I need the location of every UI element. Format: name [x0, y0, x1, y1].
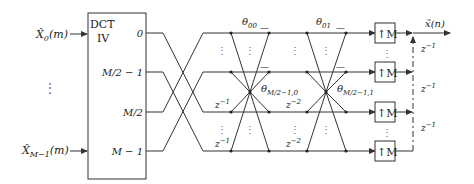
svg-text:—: —: [260, 23, 269, 33]
upsampler-1: ↑M: [375, 62, 397, 82]
output-delay-0: z−1: [420, 42, 436, 54]
theta-01-label: θ01: [316, 16, 331, 30]
upsampler-3: ↑M: [375, 141, 397, 161]
delay-z-2-b: z−2: [285, 137, 302, 149]
svg-text:⋮: ⋮: [217, 45, 227, 56]
svg-text:↑M: ↑M: [377, 146, 397, 159]
dct-output-0: 0: [137, 28, 144, 39]
delay-z-1-a: z−1: [214, 98, 230, 110]
filter-bank-diagram: X̂0(m) ⋮ X̂M−1(m) DCT IV 0 M/2 − 1 M/2 M…: [0, 0, 474, 184]
dct-output-m-1: M − 1: [111, 146, 143, 157]
svg-text:⋮: ⋮: [290, 45, 300, 56]
theta-m2-1-0-label: θM/2−1,0: [261, 83, 299, 97]
svg-text:—: —: [260, 62, 269, 72]
svg-text:⋮: ⋮: [245, 124, 255, 135]
output-label: x̃(n): [425, 18, 445, 29]
svg-text:X̂0(m): X̂0(m): [35, 28, 68, 43]
dct-output-m2: M/2: [122, 107, 143, 118]
input-ellipsis: ⋮: [44, 81, 56, 95]
output-delay-2: z−1: [420, 121, 436, 133]
svg-text:⋮: ⋮: [382, 127, 392, 138]
input-x0: X̂0(m): [35, 28, 87, 43]
svg-text:↑M: ↑M: [377, 28, 397, 41]
svg-text:⋮: ⋮: [321, 124, 331, 135]
delay-z-2-a: z−2: [285, 98, 302, 110]
svg-text:↑M: ↑M: [377, 67, 397, 80]
svg-text:⋮: ⋮: [217, 124, 227, 135]
svg-text:—: —: [336, 62, 345, 72]
upsampler-2: ↑M: [375, 102, 397, 122]
upsampler-0: ↑M: [375, 23, 397, 43]
input-xM-1: X̂M−1(m): [21, 144, 87, 159]
svg-text:⋮: ⋮: [382, 48, 392, 59]
svg-text:⋮: ⋮: [290, 124, 300, 135]
dct-title: DCT: [90, 18, 115, 31]
dct-output-m2-1: M/2 − 1: [101, 67, 143, 78]
svg-text:↑M: ↑M: [377, 107, 397, 120]
dct-subtitle: IV: [97, 32, 110, 45]
theta-00-label: θ00: [242, 16, 257, 30]
delay-z-1-b: z−1: [214, 137, 230, 149]
output-delay-1: z−1: [420, 82, 436, 94]
svg-text:⋮: ⋮: [245, 45, 255, 56]
svg-text:⋮: ⋮: [321, 45, 331, 56]
svg-text:X̂M−1(m): X̂M−1(m): [21, 144, 69, 159]
theta-m2-1-1-label: θM/2−1,1: [337, 83, 374, 97]
svg-text:—: —: [336, 23, 345, 33]
